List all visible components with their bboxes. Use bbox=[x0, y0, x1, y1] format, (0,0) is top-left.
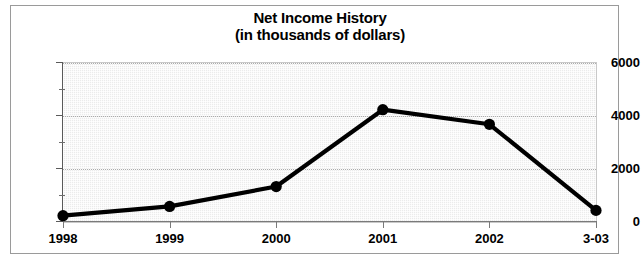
y-tick-6000 bbox=[56, 62, 63, 63]
x-axis-label-1999: 1999 bbox=[125, 231, 215, 246]
y-tick-minor-5000 bbox=[59, 89, 65, 90]
plot-area bbox=[63, 62, 597, 223]
x-tick-2001 bbox=[383, 222, 384, 228]
chart-title: Net Income History bbox=[0, 10, 640, 27]
y-tick-minor-3000 bbox=[59, 142, 65, 143]
x-axis-label-2000: 2000 bbox=[231, 231, 321, 246]
y-axis-label-6000: 6000 bbox=[588, 55, 640, 70]
plot-texture bbox=[63, 63, 596, 222]
gridline-4000 bbox=[63, 116, 596, 117]
x-axis-label-2002: 2002 bbox=[444, 231, 534, 246]
x-tick-1999 bbox=[170, 222, 171, 228]
gridline-2000 bbox=[63, 169, 596, 170]
chart-title-block: Net Income History (in thousands of doll… bbox=[0, 10, 640, 44]
x-tick-3-03 bbox=[596, 222, 597, 228]
x-axis-line bbox=[62, 221, 597, 222]
x-axis-label-2001: 2001 bbox=[338, 231, 428, 246]
chart-subtitle: (in thousands of dollars) bbox=[0, 27, 640, 44]
y-axis-label-4000: 4000 bbox=[588, 108, 640, 123]
y-tick-0 bbox=[56, 221, 63, 222]
x-axis-label-3-03: 3-03 bbox=[551, 231, 641, 246]
gridline-6000 bbox=[63, 63, 596, 64]
x-tick-1998 bbox=[63, 222, 64, 228]
x-tick-2000 bbox=[276, 222, 277, 228]
x-axis-label-1998: 1998 bbox=[18, 231, 108, 246]
x-tick-2002 bbox=[489, 222, 490, 228]
y-tick-minor-1000 bbox=[59, 195, 65, 196]
y-tick-4000 bbox=[56, 115, 63, 116]
y-tick-2000 bbox=[56, 168, 63, 169]
y-axis-label-2000: 2000 bbox=[588, 161, 640, 176]
